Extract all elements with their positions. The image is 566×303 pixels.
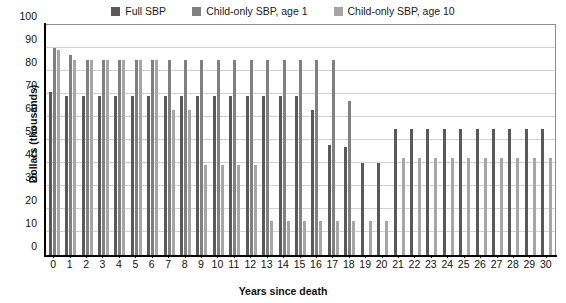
bar[interactable]	[443, 129, 446, 256]
bar[interactable]	[221, 165, 224, 255]
bar[interactable]	[299, 60, 302, 256]
bar[interactable]	[467, 158, 470, 255]
bar[interactable]	[139, 60, 142, 256]
bar[interactable]	[434, 158, 437, 255]
bar[interactable]	[114, 96, 117, 255]
bar[interactable]	[217, 60, 220, 256]
x-tick-label: 26	[471, 258, 489, 270]
bar[interactable]	[426, 129, 429, 256]
bar[interactable]	[233, 60, 236, 256]
bar[interactable]	[57, 50, 60, 255]
legend-swatch-icon	[111, 7, 120, 16]
bar[interactable]	[266, 60, 269, 256]
bar[interactable]	[484, 158, 487, 255]
bar[interactable]	[283, 60, 286, 256]
bar[interactable]	[131, 96, 134, 255]
bar[interactable]	[213, 96, 216, 255]
bar[interactable]	[418, 158, 421, 255]
bar[interactable]	[102, 60, 105, 256]
bar[interactable]	[196, 96, 199, 255]
bar[interactable]	[352, 221, 355, 256]
bar[interactable]	[476, 129, 479, 256]
bar[interactable]	[361, 163, 364, 255]
bar[interactable]	[279, 96, 282, 255]
bar[interactable]	[344, 147, 347, 255]
bar[interactable]	[229, 96, 232, 255]
bar[interactable]	[204, 165, 207, 255]
bar[interactable]	[262, 96, 265, 255]
bar[interactable]	[122, 60, 125, 256]
bar[interactable]	[459, 129, 462, 256]
x-tick-label: 0	[44, 258, 62, 270]
bar[interactable]	[188, 110, 191, 255]
legend-item[interactable]: Child-only SBP, age 10	[334, 6, 455, 17]
x-tick-label: 15	[291, 258, 309, 270]
legend-item[interactable]: Child-only SBP, age 1	[192, 6, 307, 17]
bar-group	[459, 25, 470, 255]
bar[interactable]	[369, 221, 372, 256]
bar[interactable]	[172, 110, 175, 255]
x-tickmark	[53, 255, 54, 258]
bar[interactable]	[180, 96, 183, 255]
bar[interactable]	[270, 221, 273, 256]
bar[interactable]	[549, 158, 552, 255]
bar[interactable]	[402, 158, 405, 255]
bar[interactable]	[385, 221, 388, 256]
legend-item[interactable]: Full SBP	[111, 6, 166, 17]
bar[interactable]	[86, 60, 89, 256]
bar[interactable]	[319, 221, 322, 256]
bar[interactable]	[135, 60, 138, 256]
bar[interactable]	[348, 101, 351, 255]
x-tickmark	[480, 255, 481, 258]
bar[interactable]	[336, 221, 339, 256]
bar[interactable]	[90, 60, 93, 256]
bar[interactable]	[500, 158, 503, 255]
bar[interactable]	[184, 60, 187, 256]
bar[interactable]	[533, 158, 536, 255]
bar[interactable]	[394, 129, 397, 256]
bar[interactable]	[151, 60, 154, 256]
bar[interactable]	[451, 158, 454, 255]
bar[interactable]	[164, 96, 167, 255]
bar[interactable]	[168, 60, 171, 256]
bar[interactable]	[82, 96, 85, 255]
bar[interactable]	[147, 96, 150, 255]
bar[interactable]	[118, 60, 121, 256]
bar[interactable]	[73, 60, 76, 256]
bar[interactable]	[250, 60, 253, 256]
x-tickmark	[86, 255, 87, 258]
bar[interactable]	[246, 96, 249, 255]
bar[interactable]	[69, 55, 72, 255]
bar[interactable]	[200, 60, 203, 256]
bar-group	[180, 25, 191, 255]
bar[interactable]	[49, 92, 52, 255]
bar[interactable]	[311, 110, 314, 255]
bar[interactable]	[516, 158, 519, 255]
bar[interactable]	[303, 221, 306, 256]
bar[interactable]	[508, 129, 511, 256]
bar[interactable]	[98, 96, 101, 255]
bar[interactable]	[155, 60, 158, 256]
x-tickmark	[529, 255, 530, 258]
bar[interactable]	[106, 60, 109, 256]
bar[interactable]	[254, 165, 257, 255]
x-tickmark	[464, 255, 465, 258]
x-tickmark	[300, 255, 301, 258]
x-tickmark	[349, 255, 350, 258]
bar[interactable]	[377, 163, 380, 255]
bar[interactable]	[328, 145, 331, 255]
bar[interactable]	[492, 129, 495, 256]
bar[interactable]	[315, 60, 318, 256]
bar[interactable]	[332, 60, 335, 256]
bar[interactable]	[237, 165, 240, 255]
bar[interactable]	[287, 221, 290, 256]
y-tick-label: 90	[0, 34, 37, 44]
bar[interactable]	[410, 129, 413, 256]
x-tick-label: 23	[422, 258, 440, 270]
x-tick-label: 11	[225, 258, 243, 270]
bar[interactable]	[541, 129, 544, 256]
bar[interactable]	[295, 96, 298, 255]
bar[interactable]	[65, 96, 68, 255]
bar[interactable]	[53, 48, 56, 255]
bar[interactable]	[525, 129, 528, 256]
